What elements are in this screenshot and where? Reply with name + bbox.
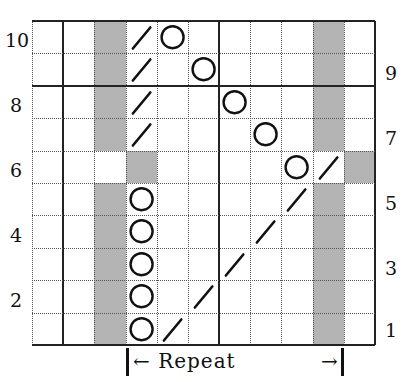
right-arrow-icon: →: [321, 347, 339, 375]
slash-icon: [126, 21, 157, 53]
circle-icon: [126, 313, 157, 345]
knitting-chart-grid: [32, 21, 375, 345]
shaded-cell: [94, 215, 125, 247]
shaded-cell: [94, 248, 125, 280]
circle-icon: [126, 183, 157, 215]
slash-icon: [281, 183, 312, 215]
grid-horizontal-line: [32, 313, 375, 314]
circle-icon: [157, 21, 188, 53]
grid-horizontal-line: [32, 215, 375, 216]
row-label-5: 5: [385, 193, 397, 213]
shaded-cell: [94, 313, 125, 345]
shaded-cell: [94, 183, 125, 215]
slash-icon: [126, 118, 157, 150]
shaded-cell: [94, 86, 125, 118]
slash-icon: [157, 313, 188, 345]
circle-icon: [126, 248, 157, 280]
row-label-7: 7: [385, 128, 397, 148]
slash-icon: [126, 53, 157, 85]
circle-icon: [219, 86, 250, 118]
row-label-1: 1: [385, 320, 397, 340]
circle-icon: [126, 280, 157, 312]
grid-horizontal-line: [32, 118, 375, 119]
slash-icon: [250, 215, 281, 247]
shaded-cell: [344, 151, 375, 183]
row-label-6: 6: [10, 160, 22, 180]
row-label-9: 9: [385, 63, 397, 83]
grid-horizontal-line: [32, 20, 375, 22]
slash-icon: [126, 86, 157, 118]
left-arrow-icon: ←: [133, 349, 151, 373]
slash-icon: [313, 151, 344, 183]
shaded-cell: [313, 280, 344, 312]
row-label-10: 10: [5, 30, 29, 50]
shaded-cell: [313, 86, 344, 118]
shaded-cell: [313, 248, 344, 280]
shaded-cell: [126, 151, 157, 183]
circle-icon: [188, 53, 219, 85]
repeat-end-bar: [341, 348, 344, 376]
shaded-cell: [94, 118, 125, 150]
slash-icon: [188, 280, 219, 312]
grid-horizontal-line: [32, 248, 375, 249]
shaded-cell: [313, 53, 344, 85]
clipped-title-fragment: [60, 0, 360, 4]
circle-icon: [126, 215, 157, 247]
repeat-start-bar: [126, 348, 129, 376]
shaded-cell: [94, 53, 125, 85]
circle-icon: [250, 118, 281, 150]
shaded-cell: [313, 183, 344, 215]
shaded-cell: [313, 313, 344, 345]
grid-horizontal-line: [32, 344, 375, 346]
shaded-cell: [313, 21, 344, 53]
grid-horizontal-line: [32, 183, 375, 184]
shaded-cell: [94, 280, 125, 312]
row-label-4: 4: [10, 225, 22, 245]
row-label-8: 8: [10, 95, 22, 115]
row-label-2: 2: [10, 290, 22, 310]
shaded-cell: [313, 118, 344, 150]
repeat-label: Repeat: [158, 349, 236, 373]
slash-icon: [219, 248, 250, 280]
circle-icon: [281, 151, 312, 183]
shaded-cell: [94, 21, 125, 53]
row-label-3: 3: [385, 258, 397, 278]
shaded-cell: [313, 215, 344, 247]
